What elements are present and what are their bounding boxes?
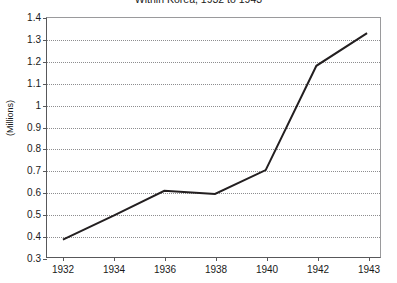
y-tick-label: 0.5 — [27, 210, 41, 220]
data-series-line — [47, 18, 380, 257]
y-tick-label: 0.8 — [27, 144, 41, 154]
x-tick-label: 1934 — [103, 264, 125, 275]
x-tick-label: 1936 — [154, 264, 176, 275]
y-axis-label: (Millions) — [5, 86, 15, 150]
y-tick-label: 0.9 — [27, 123, 41, 133]
y-tick-label: 1.3 — [27, 35, 41, 45]
y-tick-mark — [43, 259, 47, 260]
line-chart: Within Korea, 1932 to 1943 (Millions) 1.… — [0, 0, 397, 283]
x-tick-label: 1932 — [52, 264, 74, 275]
y-tick-label: 1.1 — [27, 79, 41, 89]
x-tick-label: 1938 — [205, 264, 227, 275]
x-tick-mark — [114, 257, 115, 261]
y-tick-label: 0.6 — [27, 188, 41, 198]
x-tick-mark — [63, 257, 64, 261]
x-tick-mark — [318, 257, 319, 261]
y-tick-label: 0.4 — [27, 232, 41, 242]
x-tick-mark — [165, 257, 166, 261]
x-tick-label: 1943 — [358, 264, 380, 275]
plot-area: 1.41.31.21.110.90.80.70.60.50.40.3 19321… — [46, 17, 381, 258]
x-tick-label: 1942 — [307, 264, 329, 275]
y-tick-label: 0.7 — [27, 166, 41, 176]
y-tick-label: 1.2 — [27, 57, 41, 67]
x-tick-mark — [369, 257, 370, 261]
x-tick-label: 1940 — [256, 264, 278, 275]
x-tick-mark — [267, 257, 268, 261]
y-tick-label: 0.3 — [27, 254, 41, 264]
y-tick-label: 1 — [35, 101, 41, 111]
y-tick-label: 1.4 — [27, 13, 41, 23]
x-tick-mark — [216, 257, 217, 261]
chart-title: Within Korea, 1932 to 1943 — [0, 0, 397, 5]
